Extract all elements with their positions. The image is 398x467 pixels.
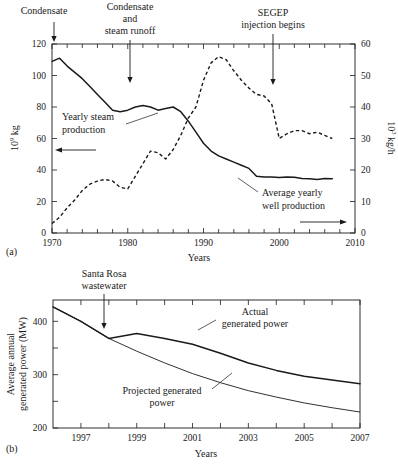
chart-b-xtick-2005: 2005 <box>295 433 314 443</box>
chart-a-annotation-condensate-and-steam-runoff-line2: and <box>123 13 137 24</box>
chart-b-yaxis-title: Average annualgenerated power (MW) <box>5 317 29 411</box>
chart-a-label-yearly-steam-production-line2: production <box>62 124 105 135</box>
chart-b-series-actual-generated-power <box>53 307 360 384</box>
chart-b-series-labels: Actualgenerated powerProjected generated… <box>122 306 288 408</box>
chart-a-annotation-arrow-segep-injection-begins <box>270 34 275 85</box>
chart-b-xaxis-title: Years <box>195 448 217 459</box>
chart-a-ytick-20: 20 <box>37 197 47 207</box>
chart-a-series-labels: Yearly steamproductionAverage yearlywell… <box>55 111 347 225</box>
chart-a-y2tick-40: 40 <box>361 102 371 112</box>
chart-a-xtick-1970: 1970 <box>43 238 62 248</box>
chart-a-series <box>52 57 332 224</box>
chart-a-annotation-condensate-and-steam-runoff-line3: steam runoff <box>105 25 156 36</box>
chart-a-y2tick-10: 10 <box>361 197 371 207</box>
chart-a-ytick-120: 120 <box>32 39 47 49</box>
chart-a-annotation-arrow-condensate <box>51 22 56 42</box>
chart-a-label-average-yearly-well-production: Average yearly <box>262 187 323 198</box>
chart-a-y2tick-60: 60 <box>361 39 371 49</box>
chart-a-ytick-40: 40 <box>37 165 47 175</box>
chart-b-ytick-400: 400 <box>33 317 48 327</box>
chart-b-axes-frame <box>53 300 360 428</box>
chart-b-tick-labels: 199719992001200320052007200300400 <box>33 317 370 443</box>
chart-b-ytick-200: 200 <box>33 423 48 433</box>
chart-a-xtick-2000: 2000 <box>270 238 289 248</box>
chart-a-tick-labels: 1970198019902000201002040608010012001020… <box>32 39 371 248</box>
chart-panel-a: CondensateCondensateandsteam runoffSEGEP… <box>0 0 398 268</box>
chart-a-annotations: CondensateCondensateandsteam runoffSEGEP… <box>21 1 305 85</box>
chart-a-label-yearly-steam-production: Yearly steam <box>62 111 114 122</box>
chart-a-label-average-yearly-well-production-line2: well production <box>262 200 325 211</box>
chart-a-xtick-1980: 1980 <box>118 238 137 248</box>
chart-a-xaxis-title: Years <box>188 252 210 263</box>
chart-a-xtick-2010: 2010 <box>346 238 365 248</box>
chart-a-annotation-condensate-line1: Condensate <box>21 5 68 16</box>
chart-b-xtick-2001: 2001 <box>183 433 202 443</box>
chart-a-annotation-segep-injection-begins-line1: SEGEP <box>258 7 289 18</box>
chart-b-label-actual-generated-power: Actual <box>242 306 269 317</box>
chart-b-annotation-santa-rosa-wastewater-line2: wastewater <box>82 280 128 291</box>
chart-b-series <box>53 307 360 412</box>
panel-b-label: (b) <box>6 443 18 454</box>
chart-b-leader-actual <box>198 320 216 330</box>
chart-a-annotation-arrow-condensate-and-steam-runoff <box>127 40 132 83</box>
chart-b-annotations: Santa Rosawastewater <box>82 268 128 329</box>
panel-a-label: (a) <box>6 246 17 257</box>
svg-text:generated power (MW): generated power (MW) <box>17 317 29 411</box>
chart-b-label-projected-generated-power: Projected generated <box>122 385 201 396</box>
chart-a-y2tick-50: 50 <box>361 71 371 81</box>
chart-a-y2tick-0: 0 <box>361 228 366 238</box>
chart-a-ytick-80: 80 <box>37 102 47 112</box>
chart-a-leader-well <box>238 178 258 192</box>
figure-container: CondensateCondensateandsteam runoffSEGEP… <box>0 0 398 467</box>
chart-b-xtick-2003: 2003 <box>239 433 258 443</box>
svg-text:Average annual: Average annual <box>5 333 16 396</box>
chart-a-y2axis-title: 103 kg/h <box>386 121 398 155</box>
chart-b-ticks <box>53 300 360 428</box>
chart-b-xtick-1999: 1999 <box>127 433 146 443</box>
chart-a-left-axis-arrow <box>55 147 96 152</box>
chart-a-y2tick-30: 30 <box>361 134 371 144</box>
chart-a-y2tick-20: 20 <box>361 165 371 175</box>
chart-panel-b: Santa Rosawastewater 1997199920012003200… <box>0 267 398 467</box>
chart-b-label-projected-generated-power-line2: power <box>150 397 176 408</box>
chart-b-xtick-2007: 2007 <box>351 433 370 443</box>
chart-b-series-projected-generated-power <box>53 307 360 412</box>
chart-a-series-yearly-steam-production <box>52 57 332 224</box>
chart-b-annotation-arrow-santa-rosa-wastewater <box>101 294 106 329</box>
svg-text:103 kg/h: 103 kg/h <box>386 121 398 155</box>
chart-a-ytick-60: 60 <box>37 134 47 144</box>
chart-a-yaxis-title: 109 kg <box>8 125 20 151</box>
chart-b-xtick-1997: 1997 <box>71 433 90 443</box>
chart-a-annotation-condensate-and-steam-runoff-line1: Condensate <box>107 1 154 12</box>
chart-a-leader-steam <box>126 113 158 124</box>
chart-b-annotation-santa-rosa-wastewater-line1: Santa Rosa <box>82 268 127 279</box>
chart-a-right-axis-arrow <box>300 219 347 224</box>
chart-a-annotation-segep-injection-begins-line2: injection begins <box>241 19 305 30</box>
svg-text:109 kg: 109 kg <box>8 125 20 151</box>
chart-a-ytick-100: 100 <box>32 71 47 81</box>
chart-a-ytick-0: 0 <box>41 228 46 238</box>
chart-b-ytick-300: 300 <box>33 370 48 380</box>
chart-b-label-actual-generated-power-line2: generated power <box>222 318 289 329</box>
chart-a-xtick-1990: 1990 <box>194 238 213 248</box>
